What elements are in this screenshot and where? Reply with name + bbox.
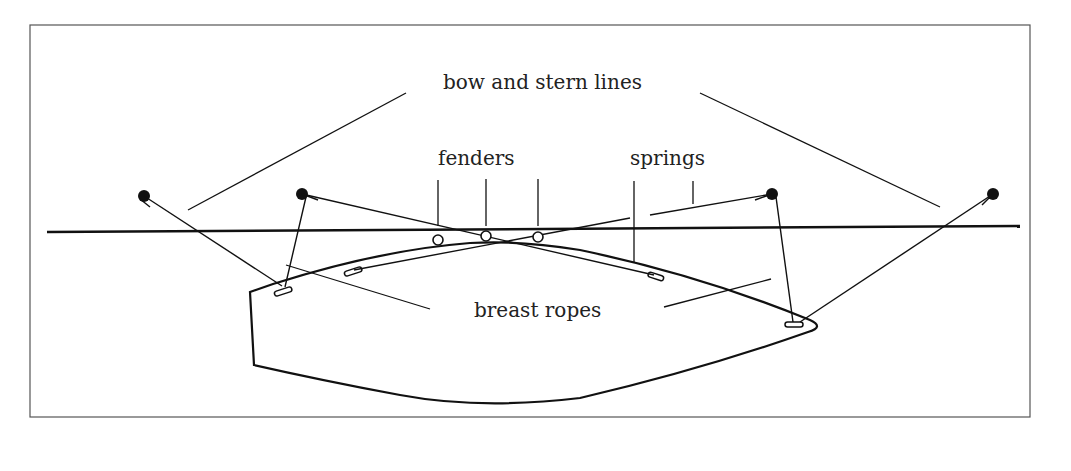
cleat-bow-icon: [785, 322, 803, 327]
fender-1-icon: [433, 235, 443, 245]
cleat-midship-aft-icon: [344, 266, 363, 276]
quay-edge: [47, 226, 1020, 232]
fender-2-icon: [481, 231, 491, 241]
cleat-midship-fwd-icon: [647, 272, 664, 282]
label-bow-and-stern-lines: bow and stern lines: [443, 70, 642, 94]
label-breast-ropes: breast ropes: [474, 298, 601, 322]
boat-hull: [250, 242, 817, 403]
cleat-stern-icon: [274, 286, 293, 296]
label-fenders: fenders: [438, 146, 515, 170]
fender-3-icon: [533, 232, 543, 242]
mooring-diagram: bow and stern lines fenders springs brea…: [0, 0, 1071, 471]
label-springs: springs: [630, 146, 705, 170]
